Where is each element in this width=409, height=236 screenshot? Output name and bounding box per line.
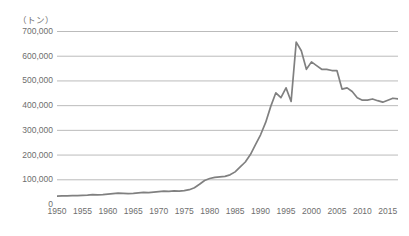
x-axis-tick-label: 1995 bbox=[277, 206, 296, 216]
y-axis-tick-label: 500,000 bbox=[0, 75, 53, 85]
x-axis-tick-label: 2015 bbox=[378, 206, 397, 216]
x-axis: 1950195519601965197019751980198519901995… bbox=[57, 206, 398, 226]
data-series-line bbox=[57, 31, 398, 204]
y-axis-tick-label: 400,000 bbox=[0, 100, 53, 110]
y-axis-tick-label: 200,000 bbox=[0, 150, 53, 160]
y-axis-unit-label: （トン） bbox=[18, 13, 54, 25]
x-axis-tick-label: 1970 bbox=[149, 206, 168, 216]
x-axis-tick-label: 2010 bbox=[353, 206, 372, 216]
chart-container: （トン） 0100,000200,000300,000400,000500,00… bbox=[0, 0, 409, 236]
y-axis-tick-label: 700,000 bbox=[0, 26, 53, 36]
plot-area bbox=[57, 31, 398, 204]
x-axis-tick-label: 1950 bbox=[48, 206, 67, 216]
x-axis-tick-label: 2005 bbox=[327, 206, 346, 216]
y-axis-tick-label: 0 bbox=[0, 199, 53, 209]
x-axis-tick-label: 1990 bbox=[251, 206, 270, 216]
y-axis-tick-label: 100,000 bbox=[0, 174, 53, 184]
x-axis-tick-label: 1975 bbox=[175, 206, 194, 216]
x-axis-tick-label: 1985 bbox=[226, 206, 245, 216]
y-axis-tick-label: 300,000 bbox=[0, 125, 53, 135]
y-axis: 0100,000200,000300,000400,000500,000600,… bbox=[0, 31, 53, 204]
x-axis-tick-label: 2000 bbox=[302, 206, 321, 216]
x-axis-tick-label: 1960 bbox=[98, 206, 117, 216]
x-axis-tick-label: 1980 bbox=[200, 206, 219, 216]
series-path bbox=[57, 42, 398, 196]
y-axis-tick-label: 600,000 bbox=[0, 51, 53, 61]
x-axis-tick-label: 1955 bbox=[73, 206, 92, 216]
x-axis-tick-label: 1965 bbox=[124, 206, 143, 216]
